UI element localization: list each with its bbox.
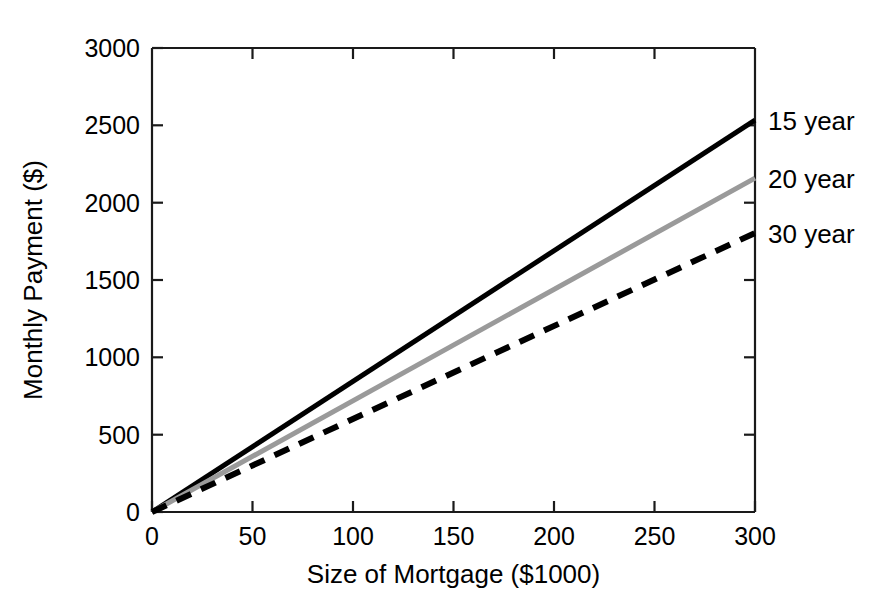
series-lines xyxy=(152,120,755,512)
x-tick-labels: 0 50 100 150 200 250 300 xyxy=(145,522,776,550)
series-line-30-year xyxy=(152,233,755,512)
y-tick-label-2500: 2500 xyxy=(84,111,140,139)
series-labels: 15 year 20 year 30 year xyxy=(768,106,855,249)
y-tick-marks xyxy=(152,48,163,512)
x-tick-label-300: 300 xyxy=(734,522,776,550)
right-axis-tick-marks xyxy=(744,125,755,434)
series-line-15-year xyxy=(152,120,755,512)
x-tick-label-0: 0 xyxy=(145,522,159,550)
y-tick-label-3000: 3000 xyxy=(84,34,140,62)
top-axis-tick-marks xyxy=(253,48,655,59)
x-tick-label-50: 50 xyxy=(239,522,267,550)
y-axis-title: Monthly Payment ($) xyxy=(18,160,48,400)
x-axis-title: Size of Mortgage ($1000) xyxy=(307,559,600,589)
y-tick-labels: 0 500 1000 1500 2000 2500 3000 xyxy=(84,34,140,526)
y-tick-label-2000: 2000 xyxy=(84,189,140,217)
series-label-30-year: 30 year xyxy=(768,219,855,249)
x-tick-label-200: 200 xyxy=(533,522,575,550)
chart-svg: 0 500 1000 1500 2000 2500 3000 0 50 100 … xyxy=(0,0,894,608)
series-label-20-year: 20 year xyxy=(768,164,855,194)
y-tick-label-1000: 1000 xyxy=(84,343,140,371)
mortgage-payment-chart: 0 500 1000 1500 2000 2500 3000 0 50 100 … xyxy=(0,0,894,608)
series-line-20-year xyxy=(152,178,755,512)
x-tick-label-150: 150 xyxy=(433,522,475,550)
x-tick-label-100: 100 xyxy=(332,522,374,550)
plot-axes xyxy=(152,48,755,512)
y-tick-label-0: 0 xyxy=(126,498,140,526)
x-tick-label-250: 250 xyxy=(634,522,676,550)
y-tick-label-500: 500 xyxy=(98,421,140,449)
x-tick-marks xyxy=(152,501,755,512)
series-label-15-year: 15 year xyxy=(768,106,855,136)
y-tick-label-1500: 1500 xyxy=(84,266,140,294)
